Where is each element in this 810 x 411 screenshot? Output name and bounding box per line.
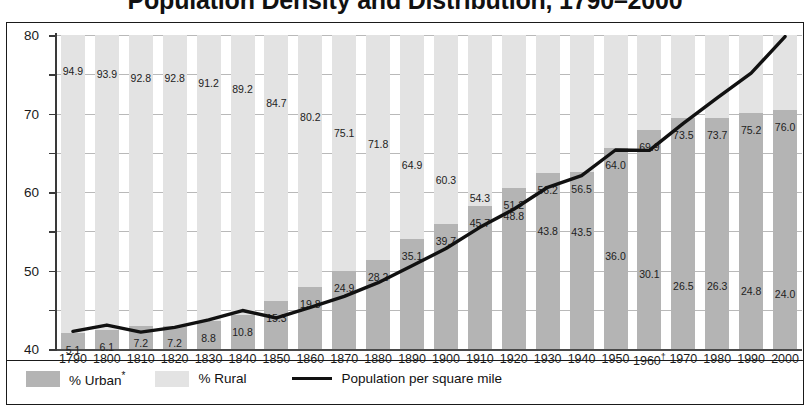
value-label-rural: 26.3: [707, 280, 727, 292]
bar-segment-urban: [773, 110, 797, 349]
value-label-urban: 19.8: [300, 298, 320, 310]
bar-segment-rural: [231, 35, 255, 315]
legend-items: % Urban*% RuralPopulation per square mil…: [26, 370, 532, 388]
legend-color-swatch-icon: [155, 371, 189, 387]
bar-segment-urban: [604, 148, 628, 349]
value-label-rural: 92.8: [131, 72, 151, 84]
bar-segment-rural: [502, 35, 526, 188]
bar-segment-rural: [298, 35, 322, 287]
bar-segment-rural: [637, 35, 661, 130]
bar-segment-urban: [264, 301, 288, 349]
value-label-rural: 84.7: [266, 97, 286, 109]
legend-item[interactable]: % Rural: [155, 371, 246, 387]
value-label-urban: 75.2: [741, 124, 761, 136]
bar-column: 24.076.0: [773, 35, 797, 349]
value-label-rural: 91.2: [198, 77, 218, 89]
bar-column: 36.064.0: [604, 35, 628, 349]
value-label-urban: 28.2: [368, 271, 388, 283]
bar-column: 89.210.8: [231, 35, 255, 349]
bar-segment-rural: [671, 35, 695, 118]
bar-column: 71.828.2: [366, 35, 390, 349]
value-label-rural: 89.2: [232, 83, 252, 95]
value-label-urban: 73.5: [673, 129, 693, 141]
y-tick-label-80: 80: [24, 28, 39, 43]
value-label-rural: 80.2: [300, 111, 320, 123]
value-label-urban: 56.2: [537, 184, 557, 196]
value-label-rural: 92.8: [164, 72, 184, 84]
bar-segment-urban: [671, 118, 695, 349]
bar-segment-urban: [705, 118, 729, 349]
value-label-urban: 56.5: [571, 183, 591, 195]
bar-segment-rural: [468, 35, 492, 206]
y-tick-label-50: 50: [24, 263, 39, 278]
chart-legend: % Urban*% RuralPopulation per square mil…: [6, 360, 804, 405]
bar-segment-rural: [739, 35, 763, 113]
legend-color-swatch-icon: [26, 371, 60, 387]
bar-column: 43.556.5: [570, 35, 594, 349]
value-label-rural: 24.0: [775, 288, 795, 300]
bar-column: 43.856.2: [536, 35, 560, 349]
value-label-rural: 36.0: [605, 250, 625, 262]
value-label-urban: 51.2: [504, 199, 524, 211]
chart-frame: Population per square mile 0102030405060…: [6, 22, 804, 405]
bar-segment-urban: [570, 172, 594, 349]
bar-column: 24.875.2: [739, 35, 763, 349]
bar-segment-rural: [434, 35, 458, 224]
legend-item[interactable]: % Urban*: [26, 370, 125, 388]
value-label-urban: 64.0: [605, 159, 625, 171]
legend-item[interactable]: Population per square mile: [292, 371, 502, 386]
value-label-urban: 73.7: [707, 129, 727, 141]
bar-segment-urban: [536, 173, 560, 349]
bar-column: 30.169.9: [637, 35, 661, 349]
bar-column: 26.573.5: [671, 35, 695, 349]
legend-label: % Urban*: [69, 370, 125, 388]
value-label-rural: 26.5: [673, 280, 693, 292]
value-label-urban: 35.1: [402, 250, 422, 262]
value-label-urban: 7.2: [167, 337, 182, 349]
value-label-rural: 43.8: [537, 225, 557, 237]
y-tick-label-60: 60: [24, 185, 39, 200]
bar-column: 26.373.7: [705, 35, 729, 349]
bar-segment-rural: [61, 35, 85, 333]
bar-column: 54.345.7: [468, 35, 492, 349]
value-label-urban: 6.1: [100, 341, 115, 353]
value-label-urban: 76.0: [775, 121, 795, 133]
value-label-rural: 64.9: [402, 159, 422, 171]
bar-segment-rural: [400, 35, 424, 239]
value-label-rural: 93.9: [97, 68, 117, 80]
bar-segment-urban: [298, 287, 322, 349]
bar-segment-rural: [536, 35, 560, 173]
value-label-urban: 39.7: [436, 235, 456, 247]
bar-segment-rural: [604, 35, 628, 148]
value-label-rural: 60.3: [436, 174, 456, 186]
plot-area: 01020304050607080 94.95.193.96.192.87.29…: [56, 35, 802, 349]
value-label-urban: 24.9: [334, 282, 354, 294]
bar-column: 84.715.3: [264, 35, 288, 349]
bar-column: 75.124.9: [332, 35, 356, 349]
bar-column: 80.219.8: [298, 35, 322, 349]
value-label-urban: 15.3: [266, 312, 286, 324]
bar-column: 92.87.2: [129, 35, 153, 349]
legend-line-swatch-icon: [292, 377, 332, 380]
bar-column: 92.87.2: [163, 35, 187, 349]
value-label-rural: 30.1: [639, 268, 659, 280]
bar-column: 60.339.7: [434, 35, 458, 349]
bar-column: 94.95.1: [61, 35, 85, 349]
bar-segment-urban: [739, 113, 763, 349]
value-label-rural: 54.3: [470, 192, 490, 204]
value-label-rural: 94.9: [63, 65, 83, 77]
legend-footnote-marker: *: [122, 370, 126, 381]
bar-column: 64.935.1: [400, 35, 424, 349]
y-tick-label-70: 70: [24, 106, 39, 121]
value-label-urban: 45.7: [470, 217, 490, 229]
bar-segment-rural: [264, 35, 288, 301]
bar-column: 93.96.1: [95, 35, 119, 349]
value-label-rural: 48.8: [504, 210, 524, 222]
bars-layer: 94.95.193.96.192.87.292.87.291.28.889.21…: [56, 35, 802, 349]
bar-column: 48.851.2: [502, 35, 526, 349]
chart-title: Population Density and Distribution, 179…: [0, 0, 810, 15]
bar-column: 91.28.8: [197, 35, 221, 349]
bar-segment-urban: [637, 130, 661, 349]
y-tick-label-40: 40: [24, 342, 39, 357]
value-label-urban: 10.8: [232, 326, 252, 338]
